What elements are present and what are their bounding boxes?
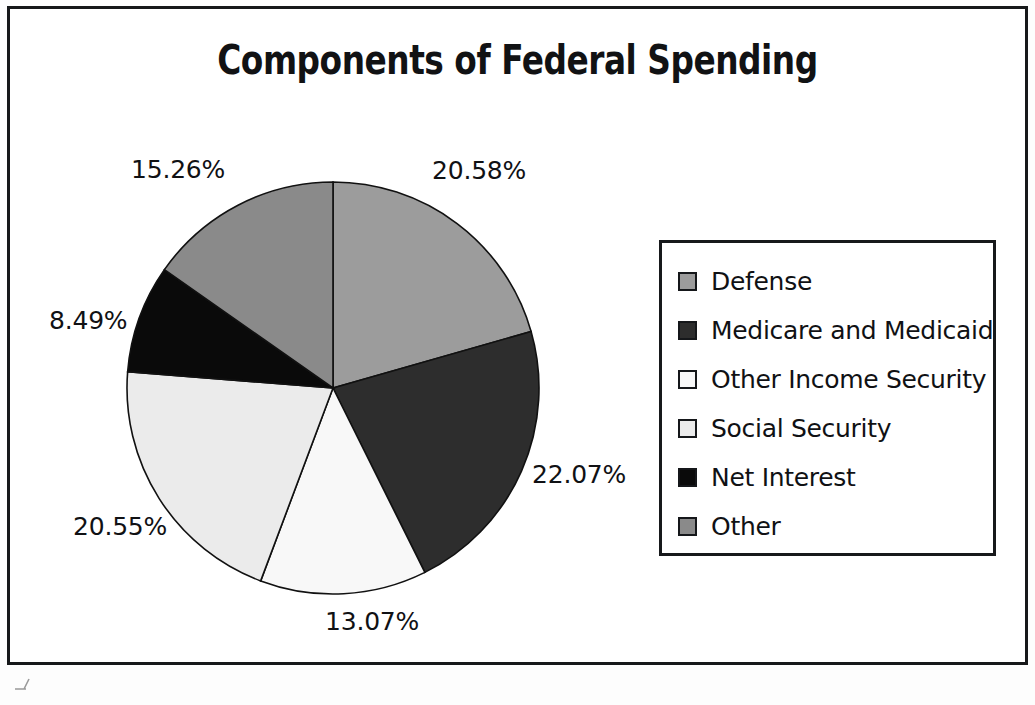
legend-item-label: Social Security bbox=[711, 414, 891, 443]
pie-chart bbox=[120, 175, 546, 601]
legend-swatch-icon bbox=[678, 419, 697, 438]
legend-swatch-icon bbox=[678, 321, 697, 340]
legend-swatch-icon bbox=[678, 370, 697, 389]
legend-item: Medicare and Medicaid bbox=[678, 306, 993, 355]
legend-swatch-icon bbox=[678, 468, 697, 487]
pie-percentage-label: 15.26% bbox=[131, 155, 225, 184]
legend-item: Social Security bbox=[678, 404, 993, 453]
legend-item-label: Other bbox=[711, 512, 780, 541]
scanned-page: Components of Federal Spending 20.58%22.… bbox=[0, 0, 1035, 705]
pie-percentage-label: 13.07% bbox=[325, 607, 419, 636]
legend-item: Other bbox=[678, 502, 993, 551]
legend-item: Net Interest bbox=[678, 453, 993, 502]
pie-percentage-label: 8.49% bbox=[49, 306, 127, 335]
pie-percentage-label: 20.58% bbox=[432, 156, 526, 185]
legend-rows: DefenseMedicare and MedicaidOther Income… bbox=[678, 257, 993, 551]
legend-item-label: Other Income Security bbox=[711, 365, 986, 394]
chart-title: Components of Federal Spending bbox=[109, 36, 926, 84]
legend-item: Defense bbox=[678, 257, 993, 306]
legend-swatch-icon bbox=[678, 517, 697, 536]
pie-percentage-label: 20.55% bbox=[73, 512, 167, 541]
legend-item-label: Net Interest bbox=[711, 463, 856, 492]
legend-item-label: Defense bbox=[711, 267, 812, 296]
legend-swatch-icon bbox=[678, 272, 697, 291]
pie-percentage-label: 22.07% bbox=[532, 460, 626, 489]
pie-slices bbox=[127, 182, 539, 594]
legend-item-label: Medicare and Medicaid bbox=[711, 316, 993, 345]
legend: DefenseMedicare and MedicaidOther Income… bbox=[659, 240, 996, 556]
scan-artifact bbox=[14, 678, 40, 691]
pie-svg bbox=[120, 175, 546, 601]
legend-item: Other Income Security bbox=[678, 355, 993, 404]
